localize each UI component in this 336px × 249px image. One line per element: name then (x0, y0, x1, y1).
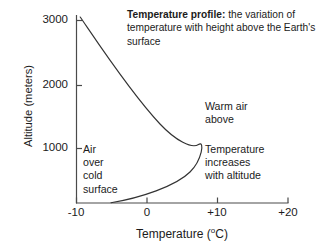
x-tick-label-plus20: +20 (266, 207, 310, 219)
x-axis-title-end: C) (215, 227, 228, 241)
y-tick-label-2000: 2000 (28, 79, 68, 91)
y-axis-title: Altitude (meters) (22, 31, 34, 181)
x-tick-label-plus10: +10 (195, 207, 239, 219)
annotation-temperature-increases: Temperature increases with altitude (205, 143, 323, 183)
x-tick-label-0: 0 (125, 207, 169, 219)
x-tick-label-minus10: -10 (54, 207, 98, 219)
annotation-warm-air-above: Warm air above (205, 100, 315, 126)
x-axis-title-main: Temperature ( (136, 227, 211, 241)
y-tick-label-3000: 3000 (28, 14, 68, 26)
y-tick-label-1000: 1000 (28, 142, 68, 154)
annotation-air-over-cold-surface: Air over cold surface (83, 143, 149, 196)
x-axis-title: Temperature (oC) (76, 226, 288, 241)
chart-figure: Temperature profile: the variation of te… (0, 0, 336, 249)
